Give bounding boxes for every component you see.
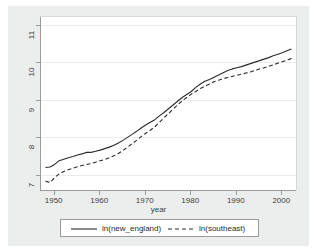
x-axis-tick-label: 1990 <box>219 196 253 205</box>
legend-label-new-england: ln(new_england) <box>102 224 161 234</box>
y-axis-tick-label: 11 <box>28 25 36 45</box>
y-axis-tick-label: 9 <box>28 100 36 120</box>
x-axis-tick-label: 1980 <box>173 196 207 205</box>
x-axis-tick <box>145 191 146 195</box>
plot-area <box>40 17 296 191</box>
plot-frame-right <box>296 16 297 190</box>
x-axis-tick-label: 1960 <box>82 196 116 205</box>
legend-label-southeast: ln(southeast) <box>199 224 245 234</box>
y-axis-tick <box>36 25 40 26</box>
series-line-1 <box>46 49 292 167</box>
x-axis-title: year <box>8 205 309 214</box>
x-axis-tick <box>99 191 100 195</box>
y-axis-tick-label: 10 <box>28 62 36 82</box>
x-axis-tick <box>236 191 237 195</box>
x-axis-tick <box>190 191 191 195</box>
legend-key-dashed-line <box>168 224 194 234</box>
y-axis-tick-label: 8 <box>28 137 36 157</box>
legend-key-solid-line <box>71 224 97 234</box>
series-line-2 <box>46 58 292 182</box>
legend-entry-new-england[interactable]: ln(new_england) <box>71 220 161 238</box>
y-axis-tick <box>36 137 40 138</box>
y-axis-tick <box>36 175 40 176</box>
chart-legend: ln(new_england) ln(southeast) <box>60 219 259 237</box>
x-axis-tick-label: 2000 <box>264 196 298 205</box>
y-axis-tick <box>36 100 40 101</box>
x-axis-tick <box>281 191 282 195</box>
legend-entry-southeast[interactable]: ln(southeast) <box>168 220 245 238</box>
y-axis-tick-label: 7 <box>28 175 36 195</box>
x-axis-tick-label: 1970 <box>128 196 162 205</box>
series-lines <box>41 17 296 190</box>
chart-figure: 7891011 195019601970198019902000 year ln… <box>8 6 309 246</box>
x-axis-tick-label: 1950 <box>37 196 71 205</box>
y-axis-tick <box>36 62 40 63</box>
x-axis-tick <box>54 191 55 195</box>
